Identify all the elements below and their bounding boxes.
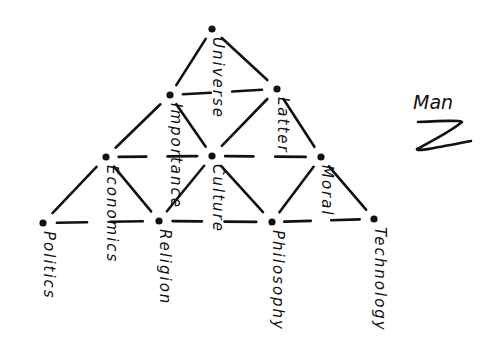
edge-economics-politics	[53, 167, 97, 213]
edge-latter-culture	[222, 99, 267, 146]
edge-importance-latter	[232, 90, 262, 92]
edge-culture-philosophy	[221, 166, 263, 212]
edge-philosophy-technology	[331, 219, 360, 220]
node-religion	[155, 217, 162, 224]
node-universe	[208, 25, 215, 32]
edge-importance-economics	[116, 104, 161, 147]
lattice-diagram	[0, 0, 497, 357]
label-technology: Technology	[372, 227, 387, 332]
diagram-title: Man	[413, 91, 453, 113]
edge-universe-latter	[222, 38, 267, 80]
label-politics: Politics	[41, 231, 56, 300]
node-moral	[317, 153, 324, 160]
node-philosophy	[268, 218, 275, 225]
node-importance	[166, 91, 173, 98]
label-religion: Religion	[157, 229, 172, 305]
edge-philosophy-technology	[284, 221, 311, 222]
label-philosophy: Philosophy	[270, 230, 285, 331]
node-latter	[273, 85, 280, 92]
label-economics: Economics	[104, 165, 119, 263]
label-moral: Moral	[319, 165, 334, 217]
label-importance: Importance	[168, 103, 183, 209]
node-economics	[102, 153, 109, 160]
label-culture: Culture	[210, 164, 225, 233]
node-culture	[208, 152, 215, 159]
edge-politics-religion	[57, 222, 87, 223]
node-technology	[370, 215, 377, 222]
label-universe: Universe	[210, 37, 225, 119]
label-latter: Latter	[275, 97, 290, 154]
z-squiggle-mark	[417, 121, 471, 150]
edge-importance-latter	[183, 93, 211, 95]
edge-moral-philosophy	[279, 167, 313, 213]
node-politics	[39, 219, 46, 226]
edge-universe-importance	[176, 39, 205, 85]
